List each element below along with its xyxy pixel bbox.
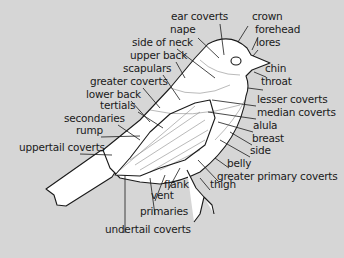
label-thigh: thigh (210, 178, 236, 190)
label-nape: nape (170, 23, 195, 35)
eye (231, 57, 241, 65)
label-lesser-coverts: lesser coverts (257, 93, 327, 105)
label-undertail-coverts: undertail coverts (105, 223, 191, 235)
label-side-of-neck: side of neck (132, 36, 193, 48)
label-tertials: tertials (100, 99, 135, 111)
label-greater-coverts: greater coverts (90, 75, 168, 87)
label-side: side (250, 144, 271, 156)
label-rump: rump (76, 124, 103, 136)
label-secondaries: secondaries (64, 112, 125, 124)
label-ear-coverts: ear coverts (171, 10, 228, 22)
label-uppertail-coverts: uppertail coverts (19, 141, 105, 153)
label-forehead: forehead (255, 23, 300, 35)
label-scapulars: scapulars (123, 62, 171, 74)
label-lores: lores (256, 36, 280, 48)
label-primaries: primaries (140, 205, 188, 217)
label-breast: breast (252, 132, 284, 144)
label-upper-back: upper back (130, 49, 187, 61)
label-throat: throat (261, 75, 292, 87)
label-belly: belly (227, 157, 251, 169)
label-vent: vent (151, 189, 174, 201)
label-chin: chin (265, 62, 286, 74)
label-crown: crown (252, 10, 283, 22)
label-alula: alula (253, 119, 277, 131)
label-median-coverts: median coverts (257, 106, 336, 118)
